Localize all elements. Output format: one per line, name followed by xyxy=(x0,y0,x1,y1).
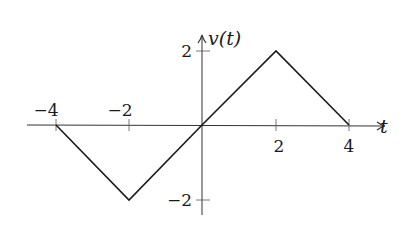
xtick-label-2: 2 xyxy=(274,136,285,156)
x-axis xyxy=(27,125,384,126)
ytick-label-2: 2 xyxy=(181,41,192,61)
x-axis-label: t xyxy=(380,115,388,137)
chart-canvas: −4 −2 2 4 2 −2 t v(t) xyxy=(0,0,407,228)
xtick-label-m2: −2 xyxy=(107,100,132,120)
ytick-label-m2: −2 xyxy=(167,190,192,210)
y-axis-label: v(t) xyxy=(208,27,241,49)
xtick-label-4: 4 xyxy=(344,136,355,156)
xtick-label-m4: −4 xyxy=(33,100,58,120)
